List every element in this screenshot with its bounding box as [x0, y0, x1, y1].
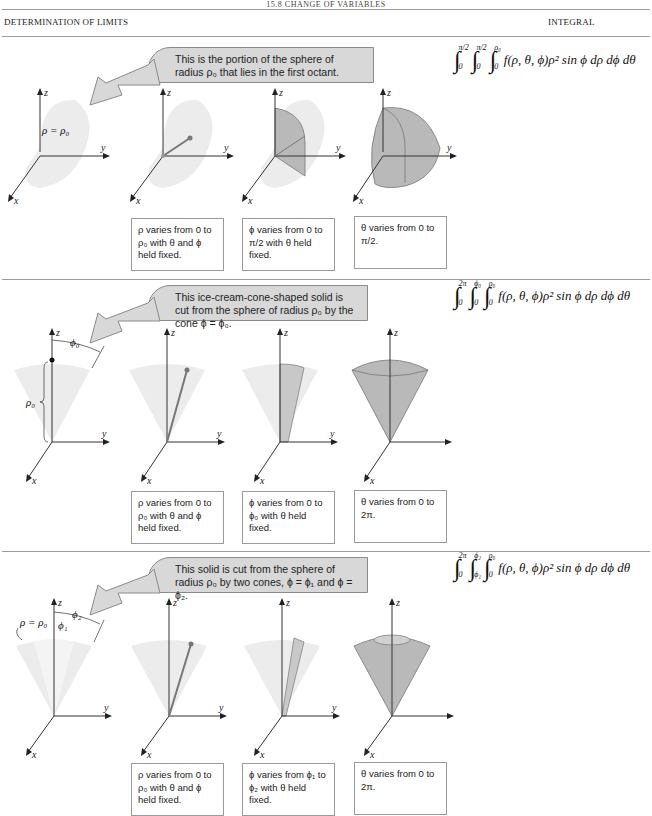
- callout-row-3: This solid is cut from the sphere of rad…: [148, 557, 368, 593]
- callout-row-2: This ice-cream-cone-shaped solid is cut …: [148, 285, 368, 321]
- header-integral: INTEGRAL: [548, 17, 595, 27]
- header-rule: [2, 36, 650, 37]
- svg-text:y: y: [331, 702, 337, 713]
- integral-row-3: ∫2π0∫ϕ₂ϕ₁∫ρ₀0f(ρ, θ, ϕ)ρ² sin ϕ dρ dϕ dθ: [454, 554, 630, 582]
- svg-text:x: x: [369, 475, 375, 486]
- step-theta-row-2: θ varies from 0 to 2π.: [354, 490, 447, 543]
- header-determination-of-limits: DETERMINATION OF LIMITS: [4, 17, 128, 27]
- rho0-label: ρ₀: [25, 396, 35, 408]
- figure-rho-varies-1: z y x: [120, 88, 240, 218]
- svg-text:x: x: [31, 475, 37, 486]
- integral-row-1: ∫π/20∫π/20∫ρ₀0f(ρ, θ, ϕ)ρ² sin ϕ dρ dϕ d…: [454, 46, 636, 74]
- svg-text:x: x: [135, 195, 141, 206]
- figure-theta-varies-2: z x: [338, 328, 458, 488]
- svg-text:z: z: [386, 88, 391, 98]
- step-phi-row-2: ϕ varies from 0 to ϕ₀ with θ held fixed.: [242, 491, 335, 544]
- svg-text:y: y: [100, 142, 106, 153]
- svg-text:x: x: [247, 195, 253, 206]
- svg-text:z: z: [172, 598, 177, 608]
- svg-text:x: x: [369, 749, 375, 758]
- svg-text:z: z: [395, 598, 400, 608]
- svg-text:x: x: [146, 749, 152, 758]
- figure-rho-varies-3: z y x: [115, 598, 235, 758]
- svg-text:z: z: [278, 88, 283, 98]
- svg-text:x: x: [358, 195, 364, 206]
- callout-row-1: This is the portion of the sphere of rad…: [148, 47, 374, 83]
- figure-ice-cream-cone: z y x ϕ₀ ρ₀: [0, 328, 120, 488]
- svg-text:z: z: [285, 598, 290, 608]
- step-rho-row-1: ρ varies from 0 to ρ₀ with θ and ϕ held …: [131, 218, 224, 271]
- svg-text:y: y: [446, 142, 452, 153]
- phi1-label: ϕ₁: [58, 619, 68, 631]
- step-phi-row-3: ϕ varies from ϕ₁ to ϕ₂ with θ held fixed…: [242, 763, 335, 816]
- svg-text:z: z: [166, 88, 171, 98]
- svg-text:x: x: [259, 475, 265, 486]
- row-divider-1: [2, 279, 650, 280]
- svg-text:y: y: [103, 702, 109, 713]
- svg-text:x: x: [146, 475, 152, 486]
- svg-text:y: y: [101, 428, 107, 439]
- step-theta-row-3: θ varies from 0 to 2π.: [354, 762, 447, 815]
- svg-text:x: x: [31, 749, 37, 758]
- svg-text:x: x: [259, 749, 265, 758]
- svg-text:x: x: [13, 195, 19, 206]
- figure-rho-varies-2: z y x: [115, 328, 235, 488]
- step-theta-row-1: θ varies from 0 to π/2.: [354, 216, 447, 269]
- rho-equals-rho0-label: ρ = ρ₀: [41, 124, 69, 136]
- phi0-label: ϕ₀: [70, 336, 80, 348]
- figure-two-cones-solid: z y x ρ = ρ₀ ϕ₁ ϕ₂: [0, 598, 120, 758]
- phi2-label: ϕ₂: [72, 608, 82, 620]
- svg-text:z: z: [393, 328, 398, 338]
- svg-text:z: z: [170, 328, 175, 338]
- figure-phi-varies-1: z y x: [230, 88, 350, 218]
- integral-row-2: ∫2π0∫ϕ₀0∫ρ₀0f(ρ, θ, ϕ)ρ² sin ϕ dρ dϕ dθ: [454, 282, 630, 310]
- figure-theta-varies-3: z x: [338, 598, 458, 758]
- svg-text:z: z: [57, 598, 62, 608]
- step-rho-row-3: ρ varies from 0 to ρ₀ with θ and ϕ held …: [131, 763, 224, 816]
- svg-text:y: y: [216, 428, 222, 439]
- row-divider-2: [2, 551, 650, 552]
- svg-text:z: z: [283, 328, 288, 338]
- figure-phi-varies-3: z y x: [228, 598, 348, 758]
- figure-sphere-octant: z y x ρ = ρ₀: [0, 88, 120, 218]
- svg-text:z: z: [43, 88, 48, 98]
- svg-text:z: z: [55, 328, 60, 338]
- top-rule: [2, 9, 650, 10]
- step-phi-row-1: ϕ varies from 0 to π/2 with θ held fixed…: [242, 218, 335, 271]
- svg-text:y: y: [329, 428, 335, 439]
- svg-text:y: y: [223, 142, 229, 153]
- svg-text:y: y: [218, 702, 224, 713]
- figure-theta-varies-1: z y x: [345, 88, 465, 218]
- rho-equals-rho0-label-3: ρ = ρ₀: [19, 616, 47, 628]
- svg-text:y: y: [335, 142, 341, 153]
- step-rho-row-2: ρ varies from 0 to ρ₀ with θ and ϕ held …: [131, 491, 224, 544]
- figure-phi-varies-2: z y x: [228, 328, 348, 488]
